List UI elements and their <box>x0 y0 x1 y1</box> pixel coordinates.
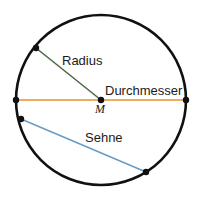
center-point-label: M <box>95 103 105 115</box>
chord-label: Sehne <box>85 131 123 144</box>
radius-label: Radius <box>62 54 102 67</box>
chord-line <box>21 119 146 172</box>
diameter-left-endpoint-marker <box>13 97 19 103</box>
diameter-label: Durchmesser <box>105 84 182 97</box>
radius-endpoint-marker <box>33 45 39 51</box>
chord-right-endpoint-marker <box>143 169 149 175</box>
diameter-right-endpoint-marker <box>183 97 189 103</box>
geometry-canvas <box>0 0 204 201</box>
chord-left-endpoint-marker <box>18 116 24 122</box>
circle-diagram-figure: Radius Durchmesser Sehne M <box>0 0 204 201</box>
